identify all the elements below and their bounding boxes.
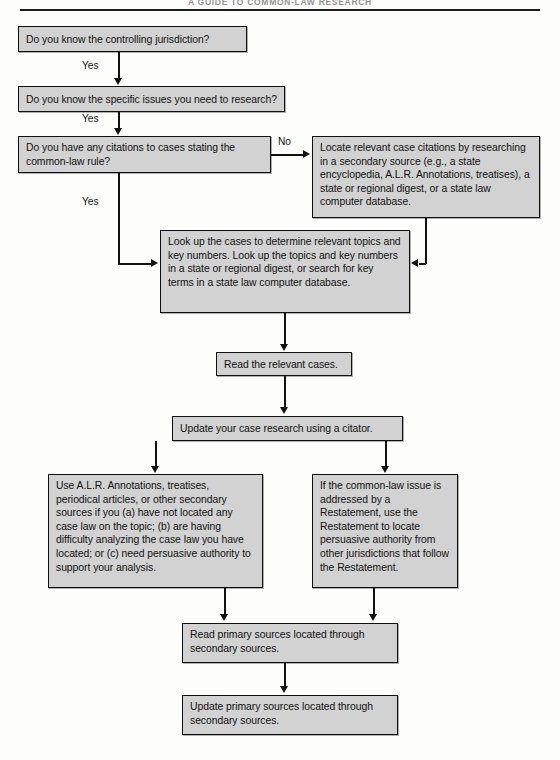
arrowhead-citations-to-locate	[303, 150, 310, 158]
node-read-primary-sources-label: Read primary sources located through sec…	[190, 629, 364, 654]
arrowhead-read-to-update	[280, 407, 288, 414]
node-specific-issues-label: Do you know the specific issues you need…	[26, 93, 277, 107]
connector-update-to-restatement	[385, 441, 387, 467]
node-locate-citations[interactable]: Locate relevant case citations by resear…	[312, 136, 540, 218]
node-update-primary-sources[interactable]: Update primary sources located through s…	[182, 695, 398, 735]
edge-label-yes-3: Yes	[82, 196, 99, 207]
connector-issues-to-citations	[118, 112, 120, 129]
node-citations-question-label: Do you have any citations to cases stati…	[26, 142, 235, 167]
arrowhead-lookup-to-read	[280, 344, 288, 351]
connector-citations-down	[118, 173, 120, 264]
arrowhead-update-to-restatement	[381, 466, 389, 473]
flowchart-page: A GUIDE TO COMMON-LAW RESEARCH Do you kn…	[0, 0, 560, 760]
arrowhead-jurisdiction-to-issues	[114, 78, 122, 85]
connector-read-primary-to-update-primary	[284, 663, 286, 687]
node-update-case-research-label: Update your case research using a citato…	[180, 422, 373, 436]
arrowhead-update-to-secondary	[151, 466, 159, 473]
node-read-primary-sources[interactable]: Read primary sources located through sec…	[182, 623, 398, 663]
node-restatement[interactable]: If the common-law issue is addressed by …	[312, 474, 458, 588]
connector-restatement-to-read-primary	[373, 588, 375, 615]
node-citations-question[interactable]: Do you have any citations to cases stati…	[18, 136, 271, 173]
running-head: A GUIDE TO COMMON-LAW RESEARCH	[0, 0, 560, 5]
header-rule	[20, 9, 540, 11]
connector-citations-to-lookup	[118, 263, 151, 265]
connector-update-to-secondary	[155, 441, 157, 467]
node-jurisdiction-label: Do you know the controlling jurisdiction…	[26, 33, 209, 47]
connector-lookup-to-read	[284, 313, 286, 344]
arrowhead-locate-to-lookup	[411, 259, 418, 267]
arrowhead-issues-to-citations	[114, 128, 122, 135]
node-look-up-cases-label: Look up the cases to determine relevant …	[168, 236, 401, 288]
arrowhead-secondary-to-read-primary	[220, 614, 228, 621]
arrowhead-read-primary-to-update-primary	[280, 686, 288, 693]
connector-jurisdiction-to-issues	[118, 52, 120, 79]
node-secondary-sources-label: Use A.L.R. Annotations, treatises, perio…	[56, 480, 251, 573]
node-secondary-sources[interactable]: Use A.L.R. Annotations, treatises, perio…	[48, 474, 263, 588]
arrowhead-citations-to-lookup	[151, 259, 158, 267]
node-update-primary-sources-label: Update primary sources located through s…	[190, 701, 373, 726]
connector-read-to-update	[284, 376, 286, 408]
connector-locate-to-lookup	[419, 263, 426, 265]
node-look-up-cases[interactable]: Look up the cases to determine relevant …	[160, 230, 410, 313]
connector-citations-to-locate	[271, 154, 304, 156]
node-jurisdiction[interactable]: Do you know the controlling jurisdiction…	[18, 26, 247, 52]
node-update-case-research[interactable]: Update your case research using a citato…	[172, 416, 403, 441]
node-specific-issues[interactable]: Do you know the specific issues you need…	[18, 86, 285, 112]
connector-locate-down	[425, 218, 427, 264]
node-locate-citations-label: Locate relevant case citations by resear…	[320, 142, 530, 207]
edge-label-no-1: No	[278, 136, 291, 147]
edge-label-yes-1: Yes	[82, 60, 99, 71]
arrowhead-restatement-to-read-primary	[369, 614, 377, 621]
edge-label-yes-2: Yes	[82, 113, 99, 124]
connector-secondary-to-read-primary	[224, 588, 226, 615]
node-read-cases-label: Read the relevant cases.	[224, 358, 338, 372]
node-read-cases[interactable]: Read the relevant cases.	[216, 352, 352, 376]
node-restatement-label: If the common-law issue is addressed by …	[320, 480, 449, 573]
